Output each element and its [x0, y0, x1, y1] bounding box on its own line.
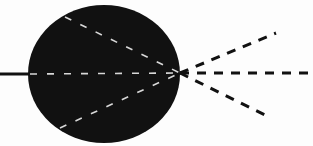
sphere-ray-diagram	[0, 0, 313, 146]
